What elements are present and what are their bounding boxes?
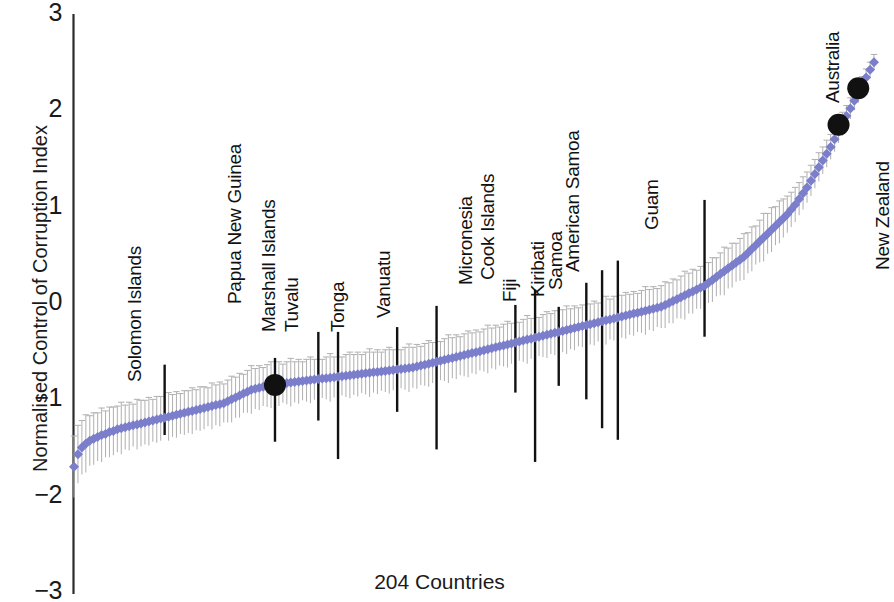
country-label-cook-islands: Cook Islands xyxy=(477,174,499,280)
highlight-marker xyxy=(264,374,286,396)
country-label-tonga: Tonga xyxy=(327,282,349,332)
country-label-fiji: Fiji xyxy=(499,279,521,302)
country-label-guam: Guam xyxy=(641,179,663,230)
country-label-solomon-islands: Solomon Islands xyxy=(124,246,146,382)
country-label-micronesia: Micronesia xyxy=(455,196,477,285)
highlight-marker xyxy=(847,77,869,99)
country-label-marshall-islands: Marshall Islands xyxy=(258,200,280,332)
country-label-papua-new-guinea: Papua New Guinea xyxy=(224,144,246,304)
country-label-new-zealand: New Zealand xyxy=(872,161,894,270)
highlight-marker xyxy=(828,114,850,136)
country-label-tuvalu: Tuvalu xyxy=(281,277,303,332)
country-label-australia: Australia xyxy=(822,32,844,103)
country-label-american-samoa: American Samoa xyxy=(562,130,584,272)
x-axis-title: 204 Countries xyxy=(0,570,879,594)
country-label-vanuatu: Vanuatu xyxy=(373,251,395,318)
